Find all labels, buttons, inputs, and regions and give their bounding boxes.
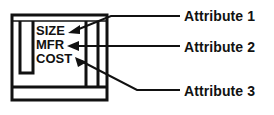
callout-1-leader-line: [74, 16, 180, 31]
attribute-label-mfr: MFR: [36, 37, 65, 52]
callout-attribute-2: Attribute 2: [67, 39, 255, 55]
attribute-label-size: SIZE: [36, 23, 65, 38]
callout-1-label: Attribute 1: [184, 8, 255, 24]
callout-attribute-3: Attribute 3: [75, 57, 255, 99]
callout-attribute-1: Attribute 1: [68, 8, 255, 34]
component-block: SIZE MFR COST: [12, 15, 107, 100]
callout-1-arrowhead: [68, 25, 80, 34]
diagram-canvas: SIZE MFR COST Attribute 1 Attribute 2 At…: [0, 0, 274, 115]
attribute-label-cost: COST: [36, 51, 72, 66]
callout-2-arrowhead: [67, 41, 79, 51]
attribute-callout-diagram: SIZE MFR COST Attribute 1 Attribute 2 At…: [0, 0, 274, 115]
callout-3-label: Attribute 3: [184, 83, 255, 99]
component-right-inner-bar: [86, 21, 98, 87]
component-left-inner-bar: [20, 21, 33, 73]
callout-2-label: Attribute 2: [184, 39, 255, 55]
